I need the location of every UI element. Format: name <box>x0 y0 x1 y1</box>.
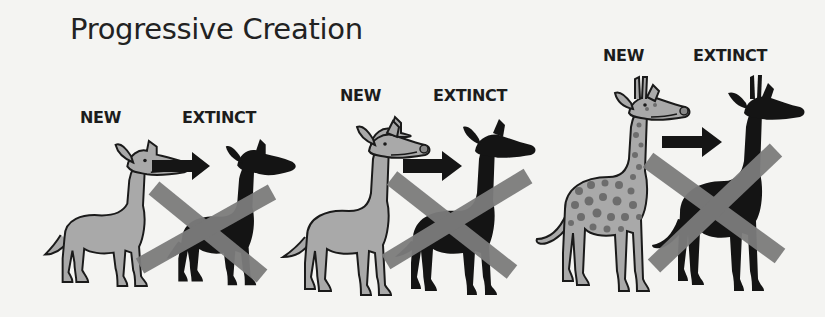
new-deer-2 <box>283 117 430 295</box>
arrow-icon <box>662 127 722 157</box>
panel-1 <box>45 139 296 286</box>
panel-3 <box>537 75 805 291</box>
panel-2 <box>283 117 536 295</box>
crossed-out-x-icon <box>386 176 528 272</box>
illustration-canvas <box>0 0 825 317</box>
